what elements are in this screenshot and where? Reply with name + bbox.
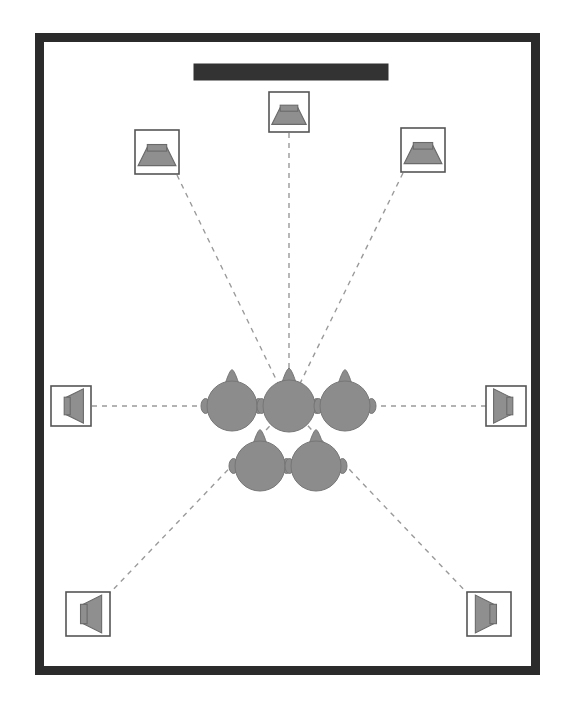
surround-sound-floor-plan xyxy=(0,0,570,717)
speaker-front-right[interactable] xyxy=(401,128,445,172)
speaker-surround-left[interactable] xyxy=(51,386,91,426)
speaker-magnet xyxy=(413,143,432,150)
speaker-magnet xyxy=(64,397,70,415)
speaker-magnet xyxy=(507,397,513,415)
listener-head xyxy=(263,380,315,432)
diagram-stage xyxy=(0,0,570,717)
speaker-magnet xyxy=(81,604,88,623)
speaker-front-left[interactable] xyxy=(135,130,179,174)
speaker-surround-back-left[interactable] xyxy=(66,592,110,636)
listener-head xyxy=(320,381,370,431)
speaker-magnet xyxy=(280,105,298,111)
listener-head xyxy=(291,441,341,491)
speaker-magnet xyxy=(147,145,166,152)
speaker-magnet xyxy=(490,604,497,623)
listener-head xyxy=(235,441,285,491)
screen-layer xyxy=(194,64,388,80)
projection-screen xyxy=(194,64,388,80)
listener-head xyxy=(207,381,257,431)
speaker-surround-right[interactable] xyxy=(486,386,526,426)
speaker-center[interactable] xyxy=(269,92,309,132)
speaker-surround-back-right[interactable] xyxy=(467,592,511,636)
